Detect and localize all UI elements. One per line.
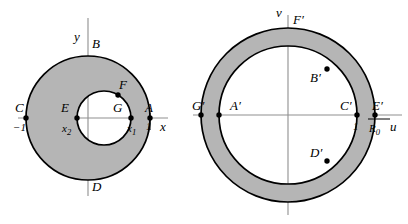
right-point-Gp-dot bbox=[198, 112, 203, 117]
right-label-Dp: D′ bbox=[309, 145, 322, 160]
left-point-E-dot bbox=[74, 115, 79, 120]
left-point-C-dot bbox=[23, 115, 28, 120]
right-plane-group: v u A′ B′ C′ 1 D′ E′ R0 bbox=[192, 5, 402, 215]
left-label-C: C bbox=[15, 100, 24, 115]
right-point-Bp-dot bbox=[324, 66, 329, 71]
right-label-Fp: F′ bbox=[292, 12, 304, 27]
left-x-axis-label: x bbox=[159, 119, 166, 134]
left-label-B: B bbox=[92, 36, 100, 51]
left-label-G: G bbox=[113, 100, 123, 115]
left-label-E: E bbox=[60, 100, 69, 115]
right-label-Ap: A′ bbox=[229, 98, 241, 113]
figure-canvas: y x A 1 B C −1 D E x2 bbox=[0, 0, 408, 224]
right-tick-Ep-subscript: 0 bbox=[376, 127, 381, 137]
right-point-Ap-dot bbox=[216, 112, 221, 117]
right-u-axis-label: u bbox=[390, 119, 397, 134]
left-label-F: F bbox=[118, 77, 128, 92]
right-v-axis-label: v bbox=[276, 5, 282, 20]
left-point-G-dot bbox=[128, 115, 133, 120]
right-label-Ep: E′ bbox=[371, 98, 383, 113]
right-label-Gp: G′ bbox=[192, 98, 204, 113]
left-tick-G-subscript: 1 bbox=[132, 127, 136, 137]
right-tick-Cp: 1 bbox=[353, 120, 359, 132]
right-point-Cp-dot bbox=[354, 112, 359, 117]
left-point-F-dot bbox=[115, 92, 120, 97]
left-tick-C: −1 bbox=[13, 121, 26, 133]
left-y-axis-label: y bbox=[72, 29, 80, 44]
right-point-Dp-dot bbox=[324, 158, 329, 163]
right-point-Ep-dot bbox=[372, 112, 377, 117]
left-label-D: D bbox=[91, 179, 102, 194]
left-plane-group: y x A 1 B C −1 D E x2 bbox=[13, 18, 168, 196]
left-label-A: A bbox=[144, 100, 153, 115]
right-label-Bp: B′ bbox=[310, 70, 321, 85]
left-tick-A: 1 bbox=[146, 120, 152, 132]
right-annulus-region bbox=[201, 28, 375, 202]
right-label-Cp: C′ bbox=[340, 98, 352, 113]
two-plane-annulus-figure: y x A 1 B C −1 D E x2 bbox=[0, 0, 408, 224]
